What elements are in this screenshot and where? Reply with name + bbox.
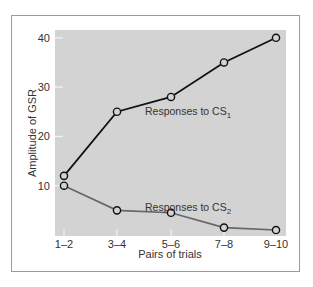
- y-axis-title: Amplitude of GSR: [26, 89, 38, 177]
- x-tick-label: 1–2: [55, 238, 73, 250]
- data-point-marker: [220, 224, 227, 231]
- line-chart: 10203040 1–23–45–67–89–10 Responses to C…: [0, 0, 313, 287]
- data-point-marker: [220, 59, 227, 66]
- data-point-marker: [272, 34, 279, 41]
- x-tick-label: 7–8: [215, 238, 233, 250]
- x-tick-label: 9–10: [264, 238, 288, 250]
- x-axis-title: Pairs of trials: [138, 248, 202, 260]
- x-tick-label: 3–4: [108, 238, 126, 250]
- data-point-marker: [167, 93, 174, 100]
- y-tick-label: 20: [38, 130, 50, 142]
- data-point-marker: [113, 207, 120, 214]
- y-tick-label: 10: [38, 180, 50, 192]
- data-point-marker: [272, 226, 279, 233]
- y-tick-label: 40: [38, 32, 50, 44]
- data-point-marker: [60, 182, 67, 189]
- data-point-marker: [113, 108, 120, 115]
- data-point-marker: [60, 172, 67, 179]
- y-tick-label: 30: [38, 81, 50, 93]
